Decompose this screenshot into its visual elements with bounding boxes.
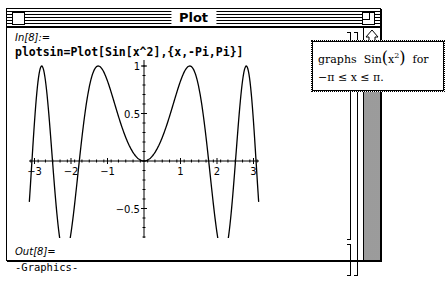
- output-label: Out[8]=: [15, 246, 56, 257]
- output-value: -Graphics-: [15, 261, 78, 273]
- plot-graphic[interactable]: −3−2−1123−1−0.50.51: [7, 28, 327, 238]
- y-tick-label: 0.5: [124, 109, 140, 120]
- cell-bracket-output[interactable]: [347, 244, 351, 276]
- x-tick-label: 1: [177, 166, 183, 177]
- notebook-content[interactable]: In[8]:= plotsin=Plot[Sin[x^2],{x,-Pi,Pi}…: [7, 28, 363, 260]
- x-tick-label: −2: [64, 166, 79, 177]
- x-tick-label: −1: [100, 166, 115, 177]
- zoom-box-icon[interactable]: [362, 12, 375, 25]
- x-tick-label: 3: [250, 166, 256, 177]
- title-bar[interactable]: Plot: [7, 9, 380, 28]
- y-tick-label: 1: [134, 61, 140, 72]
- tooltip-suffix: for: [413, 53, 429, 66]
- tooltip-prefix: graphs: [318, 53, 357, 66]
- y-tick-label: −0.5: [116, 204, 140, 215]
- help-tooltip: graphs Sin(x2) for −π ≤ x ≤ π.: [311, 40, 445, 92]
- tooltip-line-2: −π ≤ x ≤ π.: [318, 71, 384, 84]
- tooltip-func: Sin: [364, 53, 382, 66]
- x-tick-label: −3: [27, 166, 42, 177]
- window-title: Plot: [171, 10, 216, 26]
- tooltip-line-1: graphs Sin(x2) for: [318, 48, 429, 67]
- x-tick-label: 2: [214, 166, 220, 177]
- close-box-icon[interactable]: [12, 12, 25, 25]
